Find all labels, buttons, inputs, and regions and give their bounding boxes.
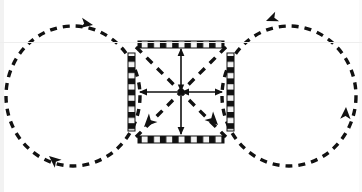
left-edge-band [0, 0, 4, 192]
right-loop-path [222, 26, 356, 166]
vertical-arrowhead-bottom [178, 127, 185, 135]
right-loop [222, 12, 356, 166]
vertical-arrowhead-top [178, 48, 185, 56]
left-bar [128, 53, 135, 131]
left-loop [6, 18, 140, 168]
figure-canvas: Figure-eight trajectory diagram with cen… [0, 0, 362, 192]
horizontal-arrowhead-left [139, 89, 147, 96]
left-loop-path [6, 26, 140, 166]
diagonal-arrowhead-lower-left [140, 114, 158, 132]
bottom-bar [138, 136, 224, 143]
right-loop-top-arrowhead [264, 12, 279, 26]
right-loop-right-arrowhead [340, 107, 351, 120]
upper-faint-rule [0, 42, 362, 43]
diagram-svg [0, 0, 362, 192]
right-bar [227, 53, 234, 131]
